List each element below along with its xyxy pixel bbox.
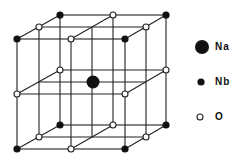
o-atom: [68, 146, 74, 152]
o-atom: [36, 24, 42, 30]
legend-o-marker: [197, 114, 203, 120]
legend-o-label: O: [215, 112, 224, 122]
o-atom: [143, 24, 149, 30]
legend: [195, 40, 209, 120]
legend-na-marker: [195, 40, 209, 54]
nb-atom: [121, 35, 128, 42]
o-atom: [163, 67, 169, 73]
o-atom: [122, 91, 128, 97]
nb-atom: [162, 121, 169, 128]
o-atom: [36, 134, 42, 140]
nb-atom: [121, 145, 128, 152]
nb-atom: [13, 145, 20, 152]
o-atom: [143, 134, 149, 140]
o-atom: [14, 91, 20, 97]
legend-nb-marker: [197, 78, 204, 85]
legend-na-label: Na: [215, 42, 230, 52]
o-atom: [110, 122, 116, 128]
na-atom: [87, 76, 100, 89]
o-atom: [68, 36, 74, 42]
o-atom: [110, 12, 116, 18]
nb-atom: [162, 11, 169, 18]
crystal-structure-diagram: [0, 0, 243, 163]
nb-atom: [56, 11, 63, 18]
nb-atom: [56, 121, 63, 128]
o-atom: [57, 67, 63, 73]
nb-atom: [13, 35, 20, 42]
legend-nb-label: Nb: [215, 77, 230, 87]
